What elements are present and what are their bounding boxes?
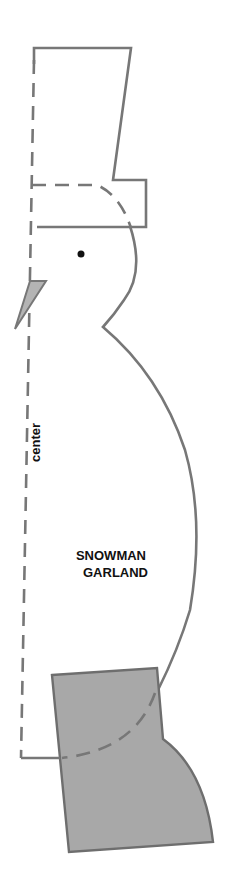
nose-icon (15, 281, 46, 329)
center-label: center (28, 423, 43, 462)
hat-outline (34, 48, 146, 227)
eye-icon (78, 251, 85, 258)
center-fold-line (21, 60, 34, 758)
title-line-1: SNOWMAN (76, 548, 146, 563)
snowman-garland-template: center SNOWMAN GARLAND (0, 0, 226, 890)
head-body-outline (103, 226, 196, 690)
hat-fold-line (32, 185, 131, 228)
title-line-2: GARLAND (83, 565, 148, 580)
boot-shape (52, 668, 213, 852)
